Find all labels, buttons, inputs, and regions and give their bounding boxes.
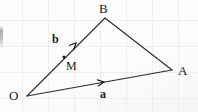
vertex-label-b: B bbox=[99, 2, 108, 15]
vertex-label-a: A bbox=[178, 64, 187, 77]
point-label-m: M bbox=[66, 60, 77, 72]
vector-label-a: a bbox=[100, 88, 106, 100]
edge-b-to-a bbox=[105, 18, 172, 70]
triangle-drawing bbox=[0, 0, 198, 112]
vector-label-b: b bbox=[52, 33, 59, 45]
vector-diagram-figure: O A B M b a bbox=[0, 0, 198, 112]
vertex-label-o: O bbox=[9, 89, 18, 102]
